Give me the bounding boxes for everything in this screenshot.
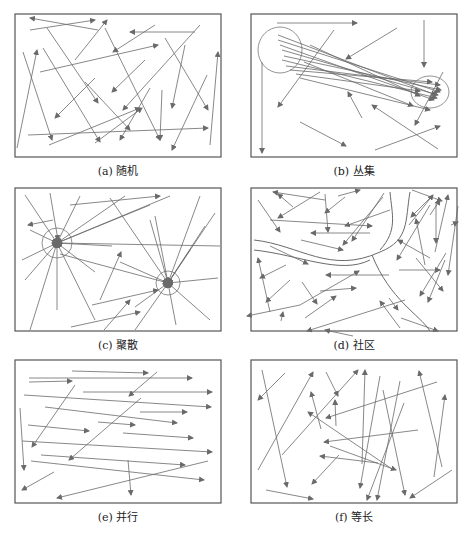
panel-d-community: [247, 188, 458, 336]
trajectory-arrow: [105, 28, 160, 140]
trajectory-arrow: [135, 283, 168, 307]
trajectory-arrow: [301, 240, 343, 250]
trajectory-arrow: [160, 90, 162, 140]
trajectory-arrow: [412, 190, 442, 201]
community-boundary: [380, 192, 393, 250]
trajectory-arrow: [75, 20, 107, 60]
trajectory-arrow: [30, 243, 57, 330]
trajectory-arrow: [270, 220, 372, 226]
trajectory-arrow: [22, 441, 212, 452]
trajectory-arrow: [419, 371, 442, 467]
trajectory-arrow: [401, 318, 438, 331]
trajectory-arrow: [383, 390, 405, 495]
trajectory-arrow: [113, 25, 155, 52]
trajectory-arrow: [335, 400, 336, 426]
trajectory-arrow: [47, 28, 98, 103]
trajectory-arrow: [247, 305, 300, 316]
community-boundary: [254, 250, 370, 265]
trajectory-arrow: [428, 260, 445, 302]
trajectory-arrow: [435, 195, 448, 252]
trajectory-arrow: [258, 372, 313, 470]
trajectory-arrow: [123, 433, 193, 438]
trajectory-arrow: [308, 412, 392, 469]
trajectory-arrow: [300, 271, 359, 305]
trajectory-arrow: [70, 196, 160, 205]
trajectory-arrow: [172, 75, 207, 150]
trajectory-arrow: [24, 395, 211, 407]
trajectory-arrow: [28, 425, 89, 431]
cluster-ellipse: [258, 27, 302, 73]
trajectory-arrow: [71, 312, 140, 327]
panel-e-parallel: [15, 360, 221, 503]
trajectory-arrow: [302, 282, 317, 304]
diagram-canvas: [0, 0, 469, 534]
trajectory-arrow: [375, 126, 440, 150]
trajectory-arrow: [32, 385, 75, 447]
trajectory-arrow: [281, 312, 283, 321]
trajectory-arrow: [345, 210, 390, 226]
trajectory-arrow: [284, 56, 441, 90]
trajectory-arrow: [168, 196, 200, 283]
trajectory-arrow: [135, 283, 168, 330]
trajectory-arrow: [29, 381, 72, 382]
trajectory-arrow: [50, 193, 58, 240]
trajectory-arrow: [320, 456, 378, 463]
trajectory-arrow: [326, 372, 338, 396]
trajectory-arrow: [311, 392, 321, 429]
panel-f-equal-length: [251, 360, 457, 503]
caption-c: (c) 聚散: [15, 336, 221, 352]
trajectory-arrow: [20, 408, 24, 470]
trajectory-arrow: [55, 78, 95, 118]
trajectory-arrow: [397, 205, 430, 260]
trajectory-arrow: [258, 200, 280, 232]
trajectory-arrow: [40, 45, 158, 72]
trajectory-arrow: [352, 193, 384, 241]
trajectory-arrow: [57, 243, 95, 272]
trajectory-arrow: [304, 62, 413, 106]
trajectory-arrow: [372, 105, 438, 149]
caption-a: (a) 随机: [15, 162, 221, 178]
trajectory-arrow: [168, 278, 218, 283]
trajectory-arrow: [260, 265, 286, 278]
trajectory-arrow: [45, 407, 177, 423]
trajectory-arrow: [325, 197, 345, 213]
trajectory-arrow: [434, 395, 445, 477]
caption-d: (d) 社区: [251, 336, 457, 352]
trajectory-arrow: [430, 200, 440, 215]
panel-frame: [251, 14, 457, 157]
trajectory-arrow: [25, 243, 57, 280]
trajectory-arrow: [266, 280, 290, 302]
trajectory-arrow: [22, 472, 54, 490]
trajectory-arrow: [210, 52, 218, 145]
trajectory-arrow: [41, 455, 185, 465]
trajectory-arrow: [398, 240, 430, 258]
trajectory-arrow: [95, 108, 142, 143]
trajectory-arrow: [30, 20, 95, 30]
trajectory-arrow: [377, 381, 400, 500]
community-boundary: [372, 255, 430, 331]
trajectory-arrow: [410, 470, 452, 498]
trajectory-arrow: [416, 219, 425, 265]
trajectory-arrow: [98, 422, 135, 425]
caption-b: (b) 丛集: [251, 162, 457, 178]
trajectory-arrow: [278, 194, 293, 207]
trajectory-arrow: [266, 490, 313, 499]
trajectory-arrow: [112, 60, 145, 92]
trajectory-arrow: [28, 220, 53, 225]
trajectory-arrow: [338, 190, 360, 196]
trajectory-arrow: [346, 28, 397, 59]
trajectory-arrow: [69, 398, 141, 460]
caption-e: (e) 并行: [15, 508, 221, 524]
trajectory-arrow: [312, 455, 339, 484]
trajectory-arrow: [282, 370, 358, 455]
panel-b-clustered: [251, 14, 457, 157]
panel-c-gathering-scattering: [15, 188, 221, 331]
trajectory-arrow: [100, 252, 121, 300]
caption-f: (f) 等长: [251, 508, 457, 524]
trajectory-arrow: [57, 196, 80, 243]
trajectory-arrow: [72, 371, 148, 373]
trajectory-arrow: [389, 298, 398, 310]
trajectory-arrow: [300, 122, 346, 146]
trajectory-arrow: [150, 220, 168, 283]
trajectory-arrow: [25, 195, 57, 243]
